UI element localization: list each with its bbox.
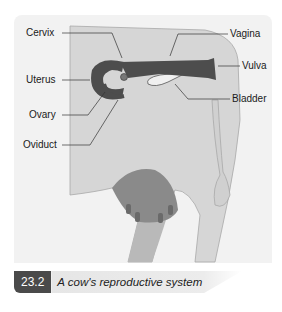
- figure-caption: 23.2 A cow's reproductive system: [14, 271, 242, 293]
- label-bladder: Bladder: [232, 93, 266, 105]
- label-uterus: Uterus: [26, 74, 55, 86]
- ovary-shape: [121, 74, 128, 81]
- label-cervix: Cervix: [26, 27, 54, 39]
- label-ovary: Ovary: [29, 109, 56, 121]
- label-oviduct: Oviduct: [23, 139, 57, 151]
- label-vulva: Vulva: [242, 60, 267, 72]
- label-vagina: Vagina: [230, 28, 260, 40]
- caption-text: A cow's reproductive system: [51, 271, 242, 293]
- cow-illustration: [0, 0, 282, 312]
- figure-number: 23.2: [14, 271, 51, 293]
